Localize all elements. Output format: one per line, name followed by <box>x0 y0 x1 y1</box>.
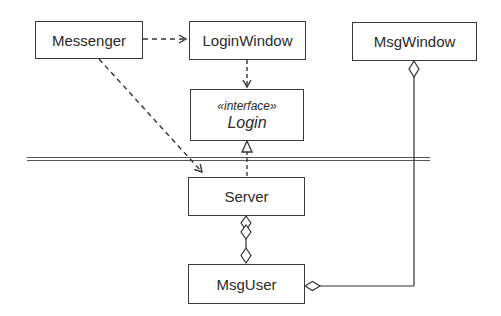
aggregation-msgwindow-msguser <box>305 61 419 291</box>
boundary-separator <box>27 158 430 161</box>
class-server: Server <box>188 177 305 216</box>
class-messenger: Messenger <box>35 21 143 59</box>
class-name: LoginWindow <box>202 32 292 49</box>
class-msgwindow: MsgWindow <box>352 22 477 61</box>
stereotype-label: «interface» <box>217 99 276 113</box>
interface-login: «interface» Login <box>190 89 304 141</box>
aggregation-server-msguser <box>241 216 251 263</box>
class-name: Messenger <box>52 32 126 49</box>
interface-name: Login <box>227 113 266 132</box>
dependency-messenger-server <box>99 59 202 172</box>
class-loginwindow: LoginWindow <box>189 21 306 60</box>
uml-diagram: Messenger LoginWindow MsgWindow «interfa… <box>0 0 501 316</box>
class-name: Server <box>224 188 268 205</box>
realization-server-login <box>242 141 252 176</box>
class-msguser: MsgUser <box>188 264 305 304</box>
class-name: MsgWindow <box>374 33 456 50</box>
class-name: MsgUser <box>216 276 276 293</box>
